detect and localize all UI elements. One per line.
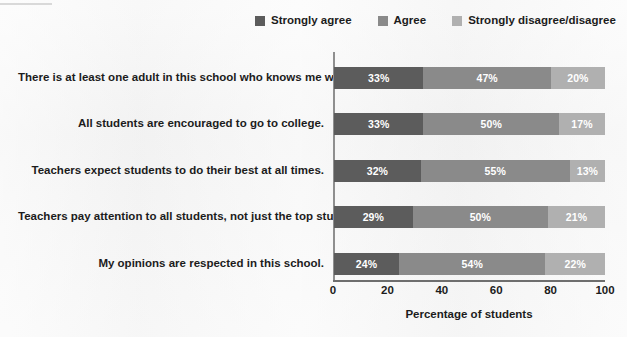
bar-row: 24%54%22% [334,253,605,275]
bar-segment[interactable]: 20% [551,67,605,89]
bar-segment[interactable]: 54% [399,253,545,275]
category-label: Teachers expect students to do their bes… [18,165,324,177]
x-tick-label: 60 [490,285,503,297]
x-tick-label: 100 [595,285,614,297]
x-tick-label: 20 [381,285,394,297]
legend-item[interactable]: Agree [378,15,427,27]
x-axis-ticks: 020406080100 [333,285,605,301]
bar-segment[interactable]: 33% [334,113,423,135]
bar-segment[interactable]: 22% [545,253,605,275]
stacked-bar-chart: There is at least one adult in this scho… [0,52,627,337]
category-label: Teachers pay attention to all students, … [18,211,324,223]
x-tick-label: 40 [435,285,448,297]
bar-row: 33%47%20% [334,67,605,89]
x-tick-label: 0 [330,285,336,297]
legend-item-label: Strongly agree [271,15,352,27]
chart-legend: Strongly agreeAgreeStrongly disagree/dis… [255,15,616,27]
bar-segment[interactable]: 24% [334,253,399,275]
x-tick-label: 80 [544,285,557,297]
legend-item[interactable]: Strongly agree [255,15,352,27]
legend-item-label: Strongly disagree/disagree [468,15,616,27]
bar-row: 29%50%21% [334,206,605,228]
legend-swatch-icon [378,16,388,26]
legend-item[interactable]: Strongly disagree/disagree [452,15,616,27]
bar-segment[interactable]: 50% [413,206,549,228]
chart-page: Strongly agreeAgreeStrongly disagree/dis… [0,0,627,337]
bar-segment[interactable]: 47% [423,67,550,89]
category-axis-labels: There is at least one adult in this scho… [18,52,332,281]
category-label: My opinions are respected in this school… [18,258,324,270]
bar-row: 32%55%13% [334,160,605,182]
x-axis-title: Percentage of students [333,308,605,320]
plot-area: 33%47%20%33%50%17%32%55%13%29%50%21%24%5… [333,52,605,281]
bar-segment[interactable]: 29% [334,206,413,228]
bar-segment[interactable]: 13% [570,160,605,182]
top-rule-decoration [0,3,52,5]
bar-segment[interactable]: 50% [423,113,559,135]
legend-item-label: Agree [394,15,427,27]
bar-segment[interactable]: 33% [334,67,423,89]
bar-segment[interactable]: 55% [421,160,570,182]
category-label: All students are encouraged to go to col… [18,118,324,130]
bar-segment[interactable]: 21% [548,206,605,228]
bar-segment[interactable]: 17% [559,113,605,135]
legend-swatch-icon [452,16,462,26]
bar-segment[interactable]: 32% [334,160,421,182]
bar-row: 33%50%17% [334,113,605,135]
x-axis-line [333,280,605,282]
category-label: There is at least one adult in this scho… [18,72,324,84]
legend-swatch-icon [255,16,265,26]
